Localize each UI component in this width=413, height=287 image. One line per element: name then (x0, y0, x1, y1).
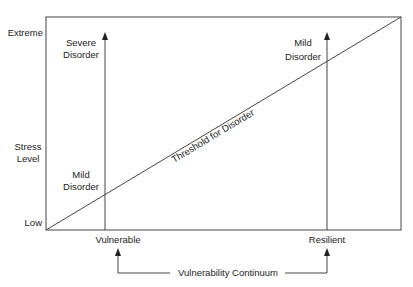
severe-disorder-line1: Severe (66, 37, 96, 48)
y-axis-title-line2: Level (17, 153, 40, 164)
y-axis-title-line1: Stress (15, 141, 42, 152)
vulnerable-mild-disorder-line1: Mild (72, 169, 89, 180)
vulnerability-stress-diagram: Threshold for Disorder Extreme Stress Le… (0, 0, 413, 287)
severe-disorder-line2: Disorder (63, 49, 99, 60)
continuum-left-arrowhead-icon (115, 248, 121, 256)
vulnerable-mild-disorder-line2: Disorder (63, 181, 99, 192)
vulnerable-arrowhead-icon (102, 32, 108, 40)
resilient-mild-disorder-line2: Disorder (285, 51, 321, 62)
continuum-right-arrowhead-icon (324, 248, 330, 256)
resilient-mild-disorder-line1: Mild (294, 37, 311, 48)
x-axis-resilient-label: Resilient (309, 234, 346, 245)
y-axis-bottom-label: Low (25, 217, 43, 228)
continuum-bracket-left (118, 254, 170, 273)
continuum-label: Vulnerability Continuum (178, 267, 278, 278)
y-axis-top-label: Extreme (8, 27, 43, 38)
threshold-label: Threshold for Disorder (169, 107, 256, 165)
resilient-arrowhead-icon (324, 32, 330, 40)
continuum-bracket-right (285, 254, 327, 273)
x-axis-vulnerable-label: Vulnerable (95, 234, 140, 245)
